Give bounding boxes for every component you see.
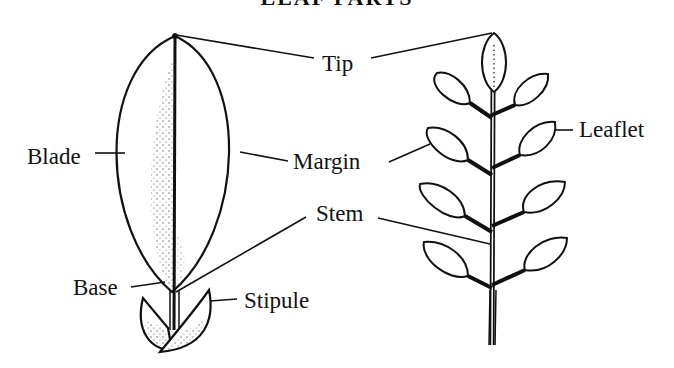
simple-leaf [116,34,229,353]
leaflet [524,237,567,270]
leaflet [427,128,468,162]
base-leader [131,282,165,287]
label-stem: Stem [316,202,363,225]
tip-leader-right [371,33,492,58]
compound-leaf [420,33,567,345]
midrib [174,38,175,330]
leaflet [514,74,548,105]
leaflet [420,183,465,217]
leaflet [424,242,468,277]
label-leaflet: Leaflet [579,118,644,141]
terminal-leaflet [482,33,506,92]
stipule-leader [210,299,237,301]
margin-leader-left [240,152,288,161]
leaf-parts-diagram: LEAF PARTS [0,0,674,368]
label-tip: Tip [322,52,353,75]
leaflet [523,181,565,212]
label-base: Base [73,276,118,299]
label-stipule: Stipule [244,289,309,312]
label-margin: Margin [293,150,360,173]
margin-leader-right [389,144,430,162]
leaflet [434,73,470,105]
leaflet [519,122,555,155]
label-blade: Blade [27,145,81,168]
